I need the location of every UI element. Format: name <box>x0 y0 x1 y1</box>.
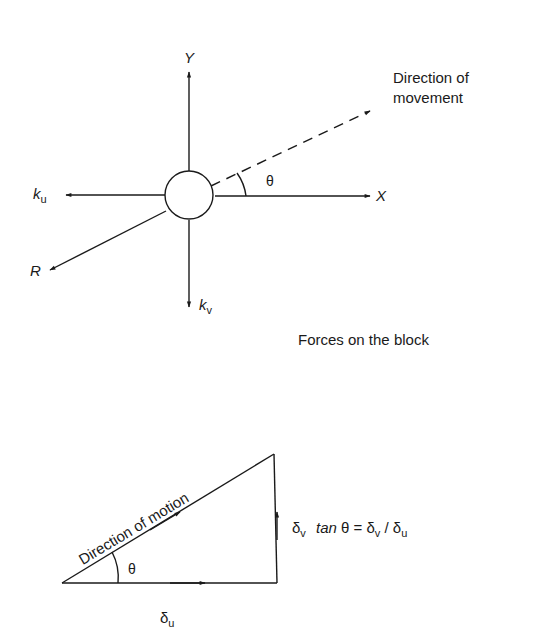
resultant-label: R <box>30 263 41 278</box>
theta-label-2: θ <box>128 562 136 576</box>
movement-label-line2: movement <box>393 90 463 105</box>
motion-triangle <box>62 454 277 583</box>
movement-label-line1: Direction of <box>393 70 469 85</box>
equation-label: δv tan θ = δv / δu <box>292 520 407 535</box>
figure-1-caption: Forces on the block <box>298 332 429 347</box>
kv-label: kv <box>199 297 212 312</box>
ku-label: ku <box>33 186 47 201</box>
theta-label-1: θ <box>266 174 274 188</box>
y-axis-label: Y <box>184 50 194 65</box>
resultant-force-arrow <box>50 211 166 270</box>
theta-arc-1 <box>237 173 246 196</box>
forces-diagram <box>50 72 370 307</box>
x-axis-label: X <box>376 188 386 203</box>
delta-v-label: δv <box>292 519 306 536</box>
delta-u-label: δu <box>160 610 174 625</box>
movement-direction-arrow <box>211 111 370 186</box>
block-circle <box>165 171 213 219</box>
theta-arc-2 <box>112 552 118 583</box>
